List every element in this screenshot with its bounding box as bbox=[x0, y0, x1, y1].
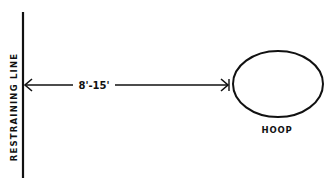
restraining-line-label: RESTRAINING LINE bbox=[9, 53, 19, 162]
distance-label: 8'-15' bbox=[78, 80, 109, 91]
hoop-label: HOOP bbox=[262, 125, 293, 135]
hoop-shape bbox=[233, 51, 323, 117]
hoop-distance-diagram: RESTRAINING LINE 8'-15' HOOP bbox=[0, 0, 332, 185]
